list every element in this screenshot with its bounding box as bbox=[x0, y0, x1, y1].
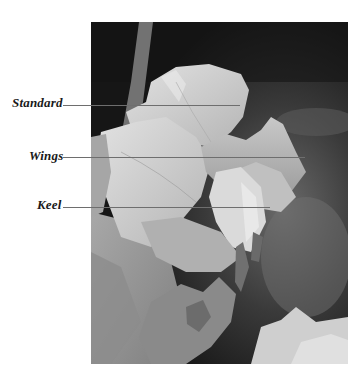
label-wings: Wings bbox=[29, 149, 63, 163]
sweet-pea-illustration bbox=[91, 22, 348, 364]
leader-line-wings bbox=[63, 157, 305, 158]
leader-line-keel bbox=[63, 207, 270, 208]
leader-line-standard bbox=[63, 105, 240, 106]
label-keel: Keel bbox=[37, 198, 62, 212]
flower-photo bbox=[91, 22, 348, 364]
label-standard: Standard bbox=[12, 96, 63, 110]
